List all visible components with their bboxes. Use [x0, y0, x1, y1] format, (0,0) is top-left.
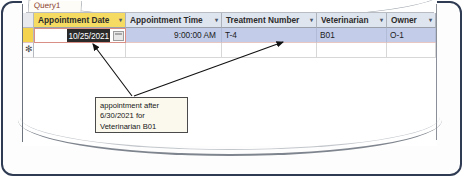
column-header-owner[interactable]: Owner ▾: [387, 13, 436, 28]
screenshot-root: Query1 Appointment Date ▾ Appointment Ti…: [0, 0, 465, 179]
datasheet-grid: Appointment Date ▾ Appointment Time ▾ Tr…: [23, 13, 436, 43]
cell-appointment-date-value: 10/25/2021: [67, 29, 110, 43]
new-record-asterisk-icon: ✻: [25, 44, 33, 54]
new-cell-treatment-number[interactable]: [222, 43, 317, 58]
cell-appointment-time[interactable]: 9:00:00 AM: [126, 28, 222, 43]
record-selector-current[interactable]: [23, 28, 34, 43]
chevron-down-icon[interactable]: ▾: [310, 13, 313, 27]
column-header-treatment-number[interactable]: Treatment Number ▾: [222, 13, 317, 28]
column-header-appointment-date-label: Appointment Date: [38, 13, 109, 27]
table-row[interactable]: 10/25/2021 9:00:00 AM T-4 B01 O-1: [23, 28, 436, 43]
new-cell-owner[interactable]: [387, 43, 436, 58]
tab-query1[interactable]: Query1: [28, 1, 83, 12]
column-header-treatment-number-label: Treatment Number: [226, 13, 299, 27]
cell-veterinarian[interactable]: B01: [317, 28, 387, 43]
column-header-appointment-time[interactable]: Appointment Time ▾: [126, 13, 222, 28]
annotation-line-2: 6/30/2021 for: [100, 111, 183, 121]
cell-veterinarian-value: B01: [320, 28, 335, 42]
record-selector-header: [23, 13, 34, 28]
cell-appointment-time-value: 9:00:00 AM: [174, 28, 216, 42]
new-record-row[interactable]: ✻: [23, 43, 436, 58]
annotation-line-1: appointment after: [100, 101, 183, 111]
column-header-veterinarian-label: Veterinarian: [321, 13, 369, 27]
new-cell-appointment-time[interactable]: [126, 43, 222, 58]
record-selector-new[interactable]: ✻: [23, 43, 34, 58]
column-header-appointment-date[interactable]: Appointment Date ▾: [34, 13, 126, 28]
chevron-down-icon[interactable]: ▾: [215, 13, 218, 27]
column-header-appointment-time-label: Appointment Time: [130, 13, 203, 27]
column-header-owner-label: Owner: [391, 13, 417, 27]
annotation-callout: appointment after 6/30/2021 for Veterina…: [95, 97, 188, 133]
cell-owner[interactable]: O-1: [387, 28, 436, 43]
cell-treatment-number-value: T-4: [225, 28, 237, 42]
new-cell-appointment-date[interactable]: [34, 43, 126, 58]
chevron-down-icon[interactable]: ▾: [380, 13, 383, 27]
new-cell-veterinarian[interactable]: [317, 43, 387, 58]
chevron-down-icon[interactable]: ▾: [119, 13, 122, 27]
datasheet-header-row: Appointment Date ▾ Appointment Time ▾ Tr…: [23, 13, 436, 28]
annotation-line-3: Veterinarian B01: [100, 122, 183, 132]
chevron-down-icon[interactable]: ▾: [429, 13, 432, 27]
column-header-veterinarian[interactable]: Veterinarian ▾: [317, 13, 387, 28]
cell-appointment-date[interactable]: 10/25/2021: [34, 28, 126, 43]
cell-owner-value: O-1: [390, 28, 404, 42]
paper-right-edge: [436, 4, 437, 140]
cell-treatment-number[interactable]: T-4: [222, 28, 317, 43]
calendar-icon[interactable]: [113, 31, 124, 41]
tab-query1-label: Query1: [34, 1, 61, 10]
